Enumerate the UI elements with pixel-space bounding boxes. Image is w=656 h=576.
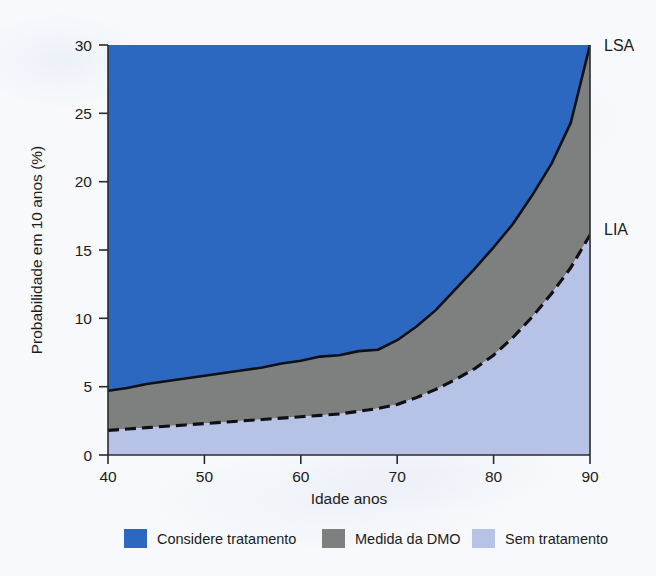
x-tick-label-40: 40 xyxy=(99,468,117,485)
legend-label-medida-da-dmo: Medida da DMO xyxy=(355,531,461,547)
x-axis-title: Idade anos xyxy=(311,490,388,507)
x-axis-ticks xyxy=(108,455,590,464)
y-axis-title: Probabilidade em 10 anos (%) xyxy=(28,146,45,355)
probability-by-age-area-chart: 0 5 10 15 20 25 30 40 50 60 70 80 90 Ida… xyxy=(0,0,656,576)
y-tick-label-15: 15 xyxy=(75,242,92,259)
y-tick-label-5: 5 xyxy=(83,378,92,395)
chart-legend: Considere tratamento Medida da DMO Sem t… xyxy=(124,529,608,548)
legend-label-considere-tratamento: Considere tratamento xyxy=(157,531,296,547)
y-tick-label-30: 30 xyxy=(75,37,93,54)
legend-item-sem-tratamento[interactable]: Sem tratamento xyxy=(472,529,608,548)
x-axis-tick-labels: 40 50 60 70 80 90 xyxy=(99,468,599,485)
y-tick-label-25: 25 xyxy=(75,105,92,122)
chart-page: 0 5 10 15 20 25 30 40 50 60 70 80 90 Ida… xyxy=(0,0,656,576)
legend-item-medida-da-dmo[interactable]: Medida da DMO xyxy=(322,529,461,548)
x-tick-label-80: 80 xyxy=(485,468,503,485)
y-tick-label-20: 20 xyxy=(75,173,93,190)
x-tick-label-90: 90 xyxy=(581,468,599,485)
x-tick-label-70: 70 xyxy=(389,468,407,485)
y-tick-label-10: 10 xyxy=(75,310,93,327)
chart-svg: 0 5 10 15 20 25 30 40 50 60 70 80 90 Ida… xyxy=(0,0,656,576)
x-tick-label-50: 50 xyxy=(196,468,214,485)
plot-bands xyxy=(108,45,590,455)
curve-label-lsa: LSA xyxy=(604,37,635,54)
legend-swatch-sem-tratamento xyxy=(472,529,495,548)
legend-label-sem-tratamento: Sem tratamento xyxy=(505,531,608,547)
legend-item-considere-tratamento[interactable]: Considere tratamento xyxy=(124,529,296,548)
y-axis-ticks xyxy=(99,45,108,455)
legend-swatch-considere-tratamento xyxy=(124,529,147,548)
legend-swatch-medida-da-dmo xyxy=(322,529,345,548)
x-tick-label-60: 60 xyxy=(292,468,310,485)
curve-label-lia: LIA xyxy=(604,221,628,238)
y-tick-label-0: 0 xyxy=(83,447,92,464)
y-axis-tick-labels: 0 5 10 15 20 25 30 xyxy=(75,37,93,464)
